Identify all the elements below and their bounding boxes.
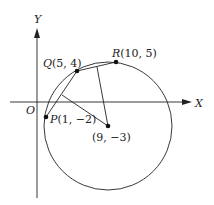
point-center [106,124,111,129]
y-axis-arrow-icon [34,28,40,38]
circle-diagram: Y X O P(1, −2) Q(5, 4) R(10, 5) (9, −3) [0,0,214,205]
y-axis-label: Y [34,13,43,26]
bisector-qr [97,67,108,126]
point-p [44,115,49,120]
origin-label: O [26,104,35,117]
x-axis-label: X [194,97,204,110]
point-q-label: Q(5, 4) [43,57,82,70]
center-label: (9, −3) [92,131,131,144]
point-r [114,60,119,65]
point-r-label: R(10, 5) [111,47,157,60]
x-axis-arrow-icon [182,99,192,105]
chord-pq [46,71,77,117]
point-p-label: P(1, −2) [49,113,96,126]
